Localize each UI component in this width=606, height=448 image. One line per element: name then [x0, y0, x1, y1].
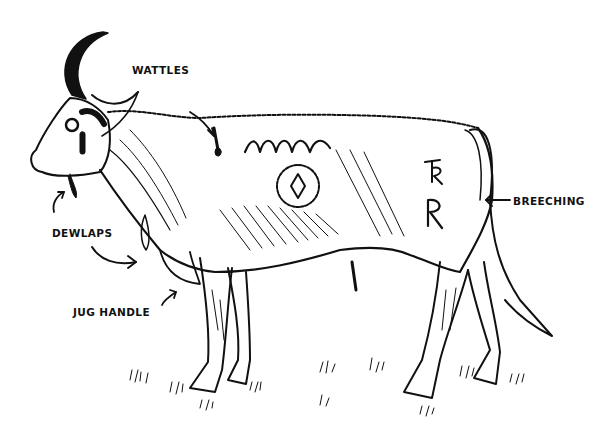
back-line — [108, 111, 478, 128]
hind-leg — [404, 262, 468, 398]
longhorn-diagram: WATTLES DEWLAPS JUG HANDLE BREECHING — [0, 0, 606, 448]
longhorn-illustration — [0, 0, 606, 448]
wavy-brand — [245, 141, 330, 152]
label-wattles: WATTLES — [132, 64, 189, 76]
circle-brand — [277, 165, 319, 207]
grass — [130, 358, 524, 416]
tail — [470, 129, 552, 336]
front-leg — [190, 258, 232, 392]
horn — [65, 32, 108, 99]
dewlaps-arrow-2 — [92, 247, 136, 263]
head-wattle-arrow — [102, 92, 138, 136]
label-dewlaps: DEWLAPS — [52, 227, 112, 239]
label-breeching: BREECHING — [513, 195, 585, 207]
label-jug-handle: JUG HANDLE — [73, 306, 150, 318]
head — [31, 98, 110, 176]
